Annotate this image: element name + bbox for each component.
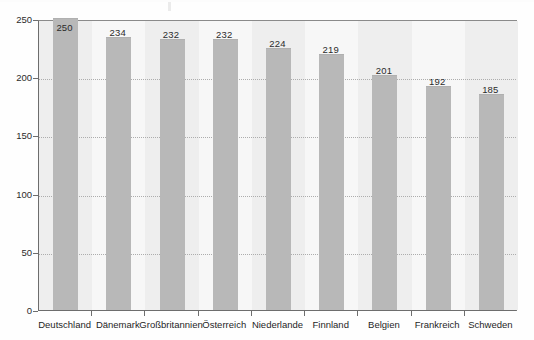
bar [372,75,397,310]
y-tick-mark [33,253,38,254]
y-tick-label: 50 [2,247,32,258]
bar-value-label: 232 [151,29,191,40]
bar [106,37,131,310]
x-tick-mark [304,311,305,316]
bar-value-label: 192 [417,76,457,87]
y-tick-mark [33,195,38,196]
x-tick-mark [91,311,92,316]
y-axis: 050100150200250 [0,0,38,340]
bar-value-label: 234 [98,27,138,38]
bar [160,39,185,310]
bar [53,18,78,310]
x-tick-mark [464,311,465,316]
y-tick-label: 150 [2,130,32,141]
bar [479,94,504,310]
bar [426,86,451,310]
x-tick-mark [144,311,145,316]
bar [266,48,291,310]
x-tick-mark [198,311,199,316]
scan-band [0,0,534,2]
y-tick-mark [33,311,38,312]
y-tick-label: 100 [2,189,32,200]
bar-value-label: 185 [470,84,510,95]
bar [213,39,238,310]
bar-value-label: 224 [258,38,298,49]
y-tick-label: 250 [2,14,32,25]
x-tick-mark [411,311,412,316]
bar-value-label: 219 [311,44,351,55]
y-tick-label: 200 [2,72,32,83]
bar-value-label: 250 [45,22,85,33]
bar-chart: 050100150200250 DeutschlandDänemarkGroßb… [0,0,534,340]
bar [319,54,344,310]
bar-value-label: 232 [204,29,244,40]
bar-value-label: 201 [364,65,404,76]
x-axis-category-label: Schweden [445,319,534,330]
y-tick-label: 0 [2,305,32,316]
plot-area [38,20,517,311]
x-tick-mark [357,311,358,316]
x-tick-mark [251,311,252,316]
y-tick-mark [33,78,38,79]
y-tick-mark [33,136,38,137]
scan-artifact [168,2,171,11]
y-tick-mark [33,20,38,21]
